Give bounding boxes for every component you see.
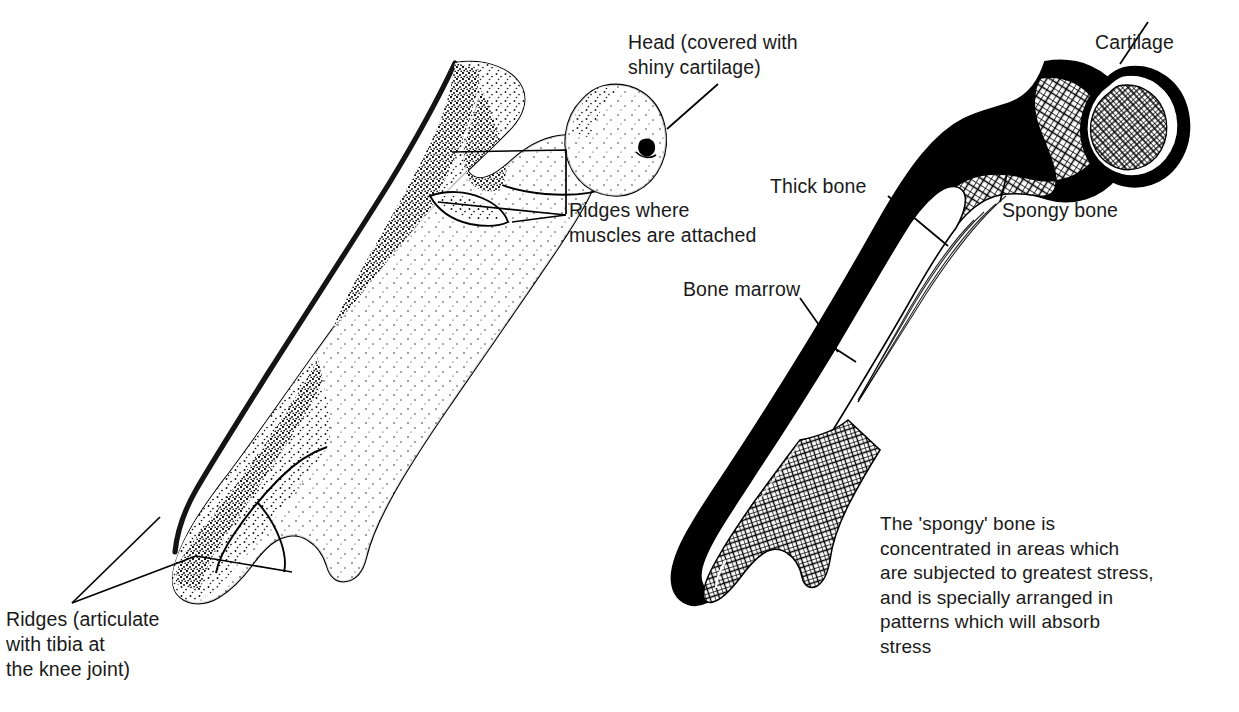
- fovea-mark: [638, 139, 655, 157]
- label-cartilage: Cartilage: [1095, 30, 1174, 55]
- diagram-page: Head (covered with shiny cartilage) Ridg…: [0, 0, 1239, 712]
- label-thick-bone: Thick bone: [770, 174, 866, 199]
- label-ridges-articulate-with-tibia: Ridges (articulate with tibia at the kne…: [6, 607, 160, 682]
- spongy-bone-explanatory-note: The 'spongy' bone is concentrated in are…: [880, 512, 1154, 659]
- label-ridges-where-muscles-are-attached: Ridges where muscles are attached: [569, 198, 756, 248]
- leader-ridges-knee-b: [72, 517, 160, 603]
- left-femur-drawing: [72, 50, 718, 620]
- label-spongy-bone: Spongy bone: [1002, 198, 1118, 223]
- label-bone-marrow: Bone marrow: [683, 277, 800, 302]
- leader-head: [667, 84, 718, 129]
- label-head: Head (covered with shiny cartilage): [628, 30, 798, 80]
